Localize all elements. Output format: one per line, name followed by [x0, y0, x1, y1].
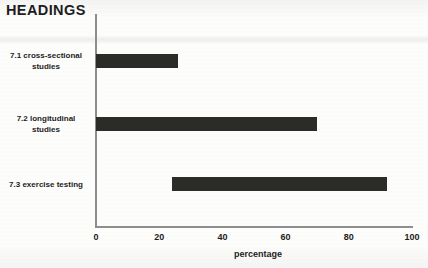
category-label-line: studies	[2, 61, 90, 72]
category-label-3: 7.3 exercise testing	[2, 179, 90, 190]
chart-page: HEADINGS percentage 7.1 cross-sectionals…	[0, 0, 428, 268]
x-tick-label-60: 60	[271, 232, 301, 242]
x-axis-line	[95, 226, 413, 228]
x-tick-label-100: 100	[397, 232, 427, 242]
category-label-1: 7.1 cross-sectionalstudies	[2, 50, 90, 72]
plot-area	[96, 14, 412, 226]
bar-2	[96, 117, 317, 131]
page-title: HEADINGS	[6, 2, 86, 18]
category-label-line: 7.3 exercise testing	[2, 179, 90, 190]
scan-artifact-bottom	[0, 248, 428, 268]
x-axis-title: percentage	[218, 249, 298, 259]
category-label-line: studies	[2, 124, 90, 135]
category-label-line: 7.2 longitudinal	[2, 113, 90, 124]
bar-1	[96, 54, 178, 68]
category-label-2: 7.2 longitudinalstudies	[2, 113, 90, 135]
x-tick-label-0: 0	[81, 232, 111, 242]
x-tick-label-80: 80	[334, 232, 364, 242]
bar-3	[172, 177, 387, 191]
x-tick-label-20: 20	[144, 232, 174, 242]
x-tick-label-40: 40	[207, 232, 237, 242]
category-label-line: 7.1 cross-sectional	[2, 50, 90, 61]
